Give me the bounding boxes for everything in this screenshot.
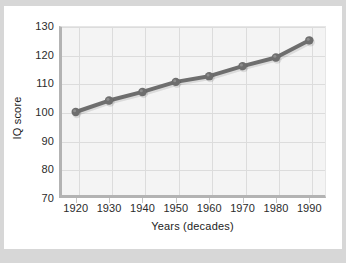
- x-axis-tick-label: 1980: [264, 202, 289, 214]
- data-point-marker: 1940: 107: [138, 88, 146, 96]
- chart-card: IQ score 708090100110120130 1920: 100193…: [4, 6, 342, 249]
- data-point-highlight: [307, 38, 310, 41]
- data-point-marker: 1970: 116: [238, 62, 246, 70]
- x-axis-label: Years (decades): [59, 220, 326, 232]
- data-point-highlight: [273, 55, 276, 58]
- x-axis-tick-labels: 19201930194019501960197019801990: [59, 202, 326, 220]
- data-series-layer: 1920: 1001930: 1041940: 1071950: 110.519…: [59, 26, 326, 198]
- y-axis-tick-label: 80: [20, 163, 54, 175]
- data-point-marker: 1990: 125: [305, 36, 313, 44]
- x-axis-tick-label: 1930: [97, 202, 122, 214]
- y-axis-tick-label: 130: [20, 20, 54, 32]
- data-point-highlight: [240, 63, 243, 66]
- y-axis-tick-label: 70: [20, 192, 54, 204]
- data-point-highlight: [73, 109, 76, 112]
- x-axis-tick-label: 1920: [63, 202, 88, 214]
- data-point-highlight: [173, 79, 176, 82]
- data-point-highlight: [140, 89, 143, 92]
- data-point-marker: 1930: 104: [105, 96, 113, 104]
- y-axis-tick-label: 100: [20, 106, 54, 118]
- y-axis-tick-label: 90: [20, 135, 54, 147]
- y-axis-tick-label: 110: [20, 77, 54, 89]
- y-axis-tick-labels: 708090100110120130: [16, 26, 54, 198]
- data-point-marker: 1960: 112.5: [205, 72, 213, 80]
- figure-container: IQ score 708090100110120130 1920: 100193…: [0, 0, 346, 263]
- x-axis-tick-label: 1970: [230, 202, 255, 214]
- x-axis-tick-label: 1960: [197, 202, 222, 214]
- data-point-highlight: [106, 98, 109, 101]
- data-point-marker: 1980: 119: [272, 53, 280, 61]
- x-axis-tick-label: 1940: [130, 202, 155, 214]
- data-point-marker: 1920: 100: [71, 108, 79, 116]
- y-axis-tick-label: 120: [20, 49, 54, 61]
- data-point-highlight: [207, 73, 210, 76]
- data-point-marker: 1950: 110.5: [172, 78, 180, 86]
- x-axis-tick-label: 1950: [163, 202, 188, 214]
- x-axis-tick-label: 1990: [297, 202, 322, 214]
